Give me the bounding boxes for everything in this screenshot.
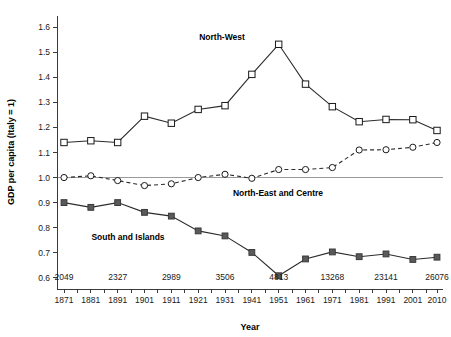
data-point-marker [141,182,147,188]
data-point-marker [88,204,94,210]
gdp-value-annotation: 3506 [216,272,235,282]
gdp-value-annotation: 2989 [162,272,181,282]
x-tick-label: 2010 [428,295,447,305]
data-point-marker [329,103,335,109]
series-label-south-and-islands: South and Islands [91,232,164,242]
x-tick-label: 1881 [81,295,100,305]
y-tick-label: 1.0 [38,173,50,183]
x-tick-label: 1931 [216,295,235,305]
x-tick-label: 1911 [162,295,181,305]
gdp-value-annotation: 4813 [269,272,288,282]
data-point-marker [249,250,255,256]
data-point-marker [61,200,67,206]
gdp-value-annotation: 26076 [425,272,449,282]
data-point-marker [356,254,362,260]
x-tick-label: 1951 [269,295,288,305]
x-tick-label: 1991 [377,295,396,305]
y-tick-label: 0.7 [38,248,50,258]
data-point-marker [275,41,281,47]
data-point-marker [356,147,362,153]
data-point-marker [195,228,201,234]
data-point-marker [410,257,416,263]
data-point-marker [168,213,174,219]
data-point-marker [115,200,121,206]
y-tick-label: 1.1 [38,148,50,158]
x-tick-label: 2001 [403,295,422,305]
data-point-marker [383,251,389,257]
y-tick-label: 0.9 [38,198,50,208]
series-label-north-east-and-centre: North-East and Centre [233,188,323,198]
data-point-marker [276,166,282,172]
data-point-marker [222,171,228,177]
data-point-marker [195,174,201,180]
gdp-value-annotation: 23141 [374,272,398,282]
series-label-north-west: North-West [199,32,245,42]
data-point-marker [249,71,255,77]
y-tick-label: 1.2 [38,122,50,132]
data-point-marker [115,177,121,183]
data-point-marker [303,256,309,262]
data-point-marker [329,249,335,255]
data-point-marker [249,175,255,181]
data-point-marker [61,174,67,180]
x-tick-label: 1921 [189,295,208,305]
data-point-marker [434,127,440,133]
x-axis-title: Year [240,322,260,332]
x-tick-label: 1871 [55,295,74,305]
data-point-marker [142,209,148,215]
data-point-marker [302,166,308,172]
data-point-marker [434,139,440,145]
x-tick-label: 1891 [108,295,127,305]
y-tick-label: 1.6 [38,22,50,32]
y-tick-label: 1.5 [38,47,50,57]
y-tick-label: 0.6 [38,273,50,283]
data-point-marker [222,102,228,108]
data-point-marker [141,113,147,119]
data-point-marker [222,233,228,239]
data-point-marker [383,147,389,153]
x-tick-label: 1941 [242,295,261,305]
data-point-marker [434,254,440,260]
x-tick-label: 1971 [323,295,342,305]
x-tick-label: 1961 [296,295,315,305]
data-point-marker [329,164,335,170]
x-axis-tick-labels: 1871188118911901191119211931194119511961… [55,295,447,305]
data-point-marker [168,120,174,126]
x-tick-label: 1981 [350,295,369,305]
gdp-value-annotation: 2049 [55,272,74,282]
data-point-marker [88,138,94,144]
data-point-marker [410,116,416,122]
data-point-marker [114,139,120,145]
data-point-marker [356,118,362,124]
gdp-value-annotation: 2327 [108,272,127,282]
data-point-marker [168,181,174,187]
data-point-marker [410,144,416,150]
gdp-per-capita-chart: 0.60.70.80.91.01.11.21.31.41.51.6 187118… [0,0,451,337]
data-point-marker [383,116,389,122]
y-axis-title: GDP per capita (Italy = 1) [6,99,16,205]
y-tick-label: 0.8 [38,223,50,233]
plot-background [0,0,451,337]
y-tick-label: 1.3 [38,97,50,107]
gdp-value-annotation: 13268 [321,272,345,282]
chart-canvas: 0.60.70.80.91.01.11.21.31.41.51.6 187118… [0,0,451,337]
y-tick-label: 1.4 [38,72,50,82]
data-point-marker [88,173,94,179]
x-tick-label: 1901 [135,295,154,305]
data-point-marker [195,106,201,112]
data-point-marker [61,139,67,145]
data-point-marker [302,81,308,87]
